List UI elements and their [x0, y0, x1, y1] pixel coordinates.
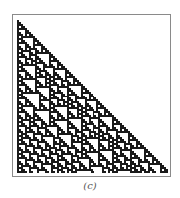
cellular-automaton-pattern: [17, 20, 168, 173]
figure-label: (c): [0, 180, 180, 191]
